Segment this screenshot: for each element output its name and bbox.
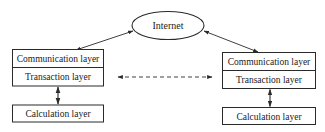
left-calculation-layer-label: Calculation layer [25,109,91,119]
internet-label: Internet [152,20,183,31]
network-layer-diagram: Internet Communication layer Transaction… [0,0,325,132]
left-node: Communication layer Transaction layer Ca… [13,50,104,123]
arrow-internet-left [76,31,133,50]
arrow-internet-right [204,31,258,52]
right-transaction-layer-label: Transaction layer [236,75,303,85]
right-calculation-layer-label: Calculation layer [236,112,302,122]
left-communication-layer-label: Communication layer [17,54,100,64]
left-transaction-layer-label: Transaction layer [25,72,92,82]
diagram-svg: Internet Communication layer Transaction… [0,0,325,132]
right-communication-layer-label: Communication layer [228,57,311,67]
internet-node: Internet [132,12,204,40]
right-node: Communication layer Transaction layer Ca… [223,53,316,125]
